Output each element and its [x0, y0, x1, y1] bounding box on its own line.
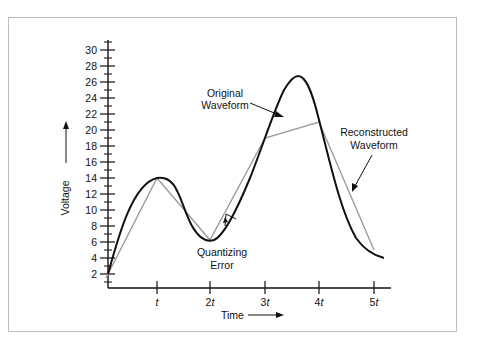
- y-tick-labels: 2 4 6 8 10 12 14 16 18 20 22 24 26 28 30: [85, 44, 97, 280]
- y-tick-label: 22: [85, 108, 97, 120]
- y-tick-label: 20: [85, 124, 97, 136]
- y-arrow-icon: [63, 121, 69, 163]
- x-axis-label: Time: [221, 309, 244, 321]
- reconstructed-waveform-annotation: Reconstructed: [340, 126, 408, 138]
- waveform-chart: 2 4 6 8 10 12 14 16 18 20 22 24 26 28 30…: [0, 0, 479, 346]
- y-tick-label: 8: [91, 220, 97, 232]
- x-tick-label: 5t: [370, 296, 380, 308]
- y-tick-label: 26: [85, 76, 97, 88]
- y-tick-label: 12: [85, 188, 97, 200]
- quantizing-error-annotation: Quantizing: [197, 246, 247, 258]
- x-tick-label: t: [156, 296, 160, 308]
- quantizing-error-annotation: Error: [210, 259, 234, 271]
- y-tick-label: 4: [91, 252, 97, 264]
- original-waveform-annotation: Waveform: [201, 99, 249, 111]
- x-tick-label: 3t: [261, 296, 271, 308]
- y-tick-label: 28: [85, 60, 97, 72]
- x-tick-label: 4t: [315, 296, 325, 308]
- y-tick-label: 30: [85, 44, 97, 56]
- x-tick-label: 2t: [206, 296, 216, 308]
- reconstructed-waveform-annotation: Waveform: [350, 139, 398, 151]
- y-tick-label: 18: [85, 140, 97, 152]
- x-tick-labels: t 2t 3t 4t 5t: [156, 296, 380, 308]
- y-tick-label: 16: [85, 156, 97, 168]
- y-axis-label: Voltage: [59, 180, 71, 215]
- y-tick-label: 2: [91, 268, 97, 280]
- original-waveform-annotation: Original: [207, 87, 243, 99]
- x-arrow-icon: [248, 312, 284, 318]
- y-tick-label: 24: [85, 92, 97, 104]
- y-tick-label: 10: [85, 204, 97, 216]
- annotation-arrow-icon: [250, 103, 284, 117]
- y-tick-label: 6: [91, 236, 97, 248]
- y-tick-label: 14: [85, 172, 97, 184]
- annotation-arrow-icon: [352, 155, 372, 192]
